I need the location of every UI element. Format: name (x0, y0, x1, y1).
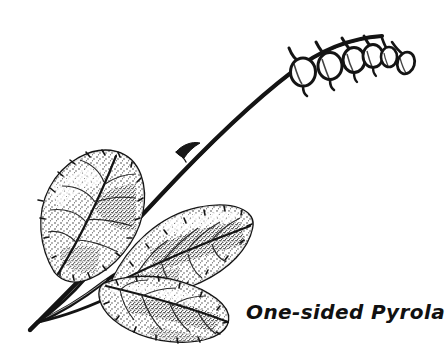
flower-cluster (289, 36, 417, 96)
leaf-lower (95, 270, 240, 350)
flower-3 (342, 38, 365, 82)
flower-5 (381, 38, 397, 67)
flower-1 (289, 48, 316, 96)
species-label: One-sided Pyrola (246, 300, 445, 324)
